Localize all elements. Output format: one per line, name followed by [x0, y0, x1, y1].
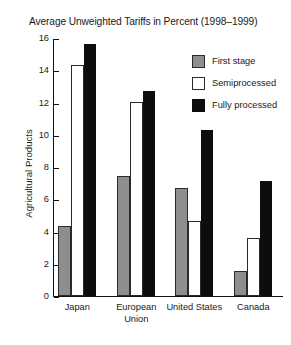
- y-tick-label: 16: [39, 33, 49, 44]
- legend-swatch-icon: [192, 77, 205, 90]
- x-tick-label-line: Union: [86, 314, 186, 326]
- bar: [247, 238, 260, 296]
- y-tick-label: 12: [39, 98, 49, 109]
- bar: [130, 102, 143, 296]
- bar: [84, 44, 97, 296]
- bar: [143, 91, 156, 296]
- x-tick-label: Canada: [203, 302, 291, 314]
- legend-item-label: Fully processed: [212, 100, 277, 110]
- y-tick-label: 10: [39, 130, 49, 141]
- y-tick-label: 14: [39, 65, 49, 76]
- bar: [260, 181, 273, 295]
- bar: [117, 176, 130, 295]
- y-tick-label: 0: [44, 291, 49, 302]
- y-tick-label: 8: [44, 162, 49, 173]
- bar: [175, 188, 188, 296]
- legend-swatch-icon: [192, 55, 205, 68]
- bar: [58, 226, 71, 295]
- legend-item-label: First stage: [212, 56, 255, 66]
- x-tick-label-line: Canada: [203, 302, 291, 314]
- tariffs-bar-chart: Average Unweighted Tariffs in Percent (1…: [0, 0, 291, 345]
- legend-item: First stage: [192, 52, 277, 70]
- y-tick-label: 6: [44, 194, 49, 205]
- bar: [234, 271, 247, 295]
- y-axis-label: Agricultural Products: [23, 89, 34, 259]
- bar: [188, 221, 201, 295]
- bar-group: [58, 39, 96, 296]
- bar: [71, 65, 84, 296]
- bar: [201, 130, 214, 296]
- bar-group: [117, 39, 155, 296]
- legend-item: Semiprocessed: [192, 74, 277, 92]
- legend-item-label: Semiprocessed: [212, 78, 276, 88]
- x-axis-line: [53, 296, 283, 297]
- y-tick-mark: [54, 297, 59, 298]
- chart-title: Average Unweighted Tariffs in Percent (1…: [29, 16, 257, 27]
- y-tick-label: 2: [44, 259, 49, 270]
- legend-item: Fully processed: [192, 96, 277, 114]
- y-tick-label: 4: [44, 227, 49, 238]
- chart-legend: First stageSemiprocessedFully processed: [192, 52, 277, 118]
- legend-swatch-icon: [192, 99, 205, 112]
